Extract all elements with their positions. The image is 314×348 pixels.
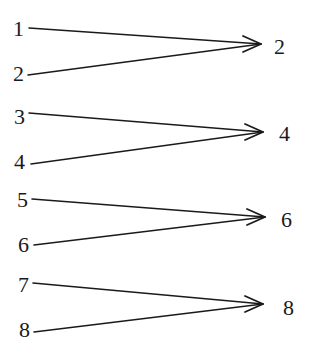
source-label: 4 xyxy=(14,149,25,174)
mapping-group-1: 122 xyxy=(13,16,285,86)
target-label: 4 xyxy=(279,121,290,146)
target-label: 8 xyxy=(283,295,294,320)
target-label: 6 xyxy=(281,207,292,232)
source-label: 2 xyxy=(13,61,24,86)
mapping-group-3: 566 xyxy=(17,187,292,257)
connector-line xyxy=(33,283,263,304)
source-label: 5 xyxy=(17,187,28,212)
mapping-diagram: 122344566788 xyxy=(0,0,314,348)
connector-line xyxy=(28,44,261,75)
source-label: 8 xyxy=(19,317,30,342)
connector-line xyxy=(31,132,263,164)
mapping-group-2: 344 xyxy=(14,104,290,174)
source-label: 7 xyxy=(18,272,29,297)
connector-line xyxy=(34,217,265,245)
connector-line xyxy=(32,199,265,217)
source-label: 1 xyxy=(13,16,24,41)
mapping-group-4: 788 xyxy=(18,272,294,342)
connector-line xyxy=(29,28,261,44)
connector-line xyxy=(29,113,263,132)
connector-line xyxy=(34,304,263,332)
source-label: 6 xyxy=(18,232,29,257)
target-label: 2 xyxy=(274,34,285,59)
source-label: 3 xyxy=(14,104,25,129)
